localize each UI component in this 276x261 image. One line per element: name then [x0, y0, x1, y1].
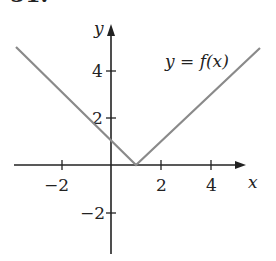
function-graph: 51. −2 2 4 4 2 −2 x y y = f(x) — [0, 0, 276, 261]
x-axis-label: x — [248, 172, 258, 192]
x-axis-arrow-icon — [235, 161, 246, 169]
y-tick-label-neg2: −2 — [80, 203, 105, 223]
x-tick-label-4: 4 — [206, 175, 217, 195]
x-tick-label-neg2: −2 — [44, 175, 69, 195]
y-tick-label-4: 4 — [92, 61, 103, 81]
x-tick-label-2: 2 — [156, 175, 167, 195]
y-axis-label: y — [93, 18, 104, 38]
curve-label: y = f(x) — [164, 51, 229, 71]
problem-number: 51. — [10, 0, 48, 7]
y-tick-label-2: 2 — [92, 108, 103, 128]
y-axis-arrow-icon — [107, 24, 115, 36]
